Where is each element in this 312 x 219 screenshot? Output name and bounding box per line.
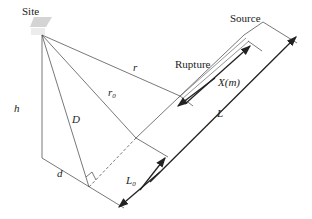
D-line — [42, 35, 89, 187]
X-arrow-back — [178, 78, 215, 106]
h-label: h — [14, 102, 20, 114]
source-tick — [263, 22, 297, 43]
X-label: X(m) — [217, 76, 240, 89]
r0-line — [42, 35, 136, 138]
source-label: Source — [230, 12, 261, 24]
rupture-label: Rupture — [175, 58, 211, 70]
site-label: Site — [22, 5, 39, 17]
L0-label: L0 — [125, 174, 136, 188]
right-angle-marker — [86, 172, 96, 180]
D-label: D — [71, 113, 80, 125]
L-label: L — [216, 107, 223, 119]
source-tick-2 — [248, 41, 262, 51]
d-label: d — [57, 167, 63, 179]
d-line — [42, 158, 124, 208]
rupture-edge — [182, 41, 249, 99]
site-marker-icon — [30, 17, 52, 35]
r-extension — [180, 96, 193, 106]
diagram-svg: Site Source Rupture r r0 h D d L L0 X(m) — [0, 0, 312, 219]
L0-arrow — [140, 158, 165, 190]
r0-extension — [136, 138, 168, 157]
X-arrow — [185, 46, 250, 104]
r0-label: r0 — [108, 86, 116, 100]
r-label: r — [133, 61, 138, 73]
diagram-canvas: Site Source Rupture r r0 h D d L L0 X(m) — [0, 0, 312, 219]
